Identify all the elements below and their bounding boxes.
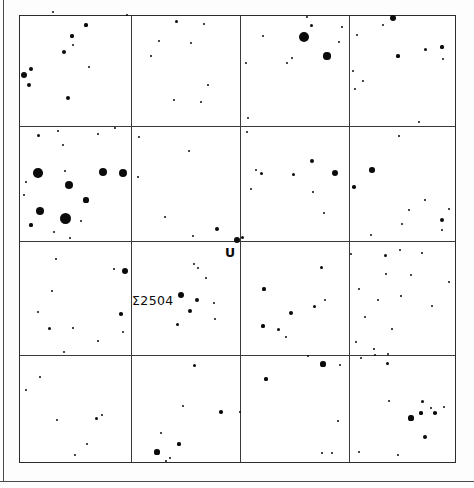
star-marker <box>352 70 354 72</box>
star-marker <box>55 258 58 261</box>
star-marker <box>442 58 445 61</box>
star-marker <box>441 229 443 231</box>
star-marker <box>421 400 424 403</box>
star-marker <box>369 167 375 173</box>
star-marker <box>122 331 124 333</box>
star-marker <box>320 266 323 269</box>
star-marker <box>373 348 375 350</box>
star-marker <box>113 268 115 270</box>
star-marker <box>396 54 399 57</box>
star-marker <box>193 364 196 367</box>
star-marker <box>177 442 180 445</box>
star-marker <box>250 188 252 190</box>
star-marker <box>350 253 352 255</box>
star-marker <box>37 134 40 137</box>
scan-edge-left-rule <box>3 0 4 481</box>
star-marker <box>360 357 363 360</box>
star-marker <box>364 316 367 319</box>
star-marker <box>99 168 108 177</box>
star-marker <box>207 84 209 86</box>
star-marker <box>324 299 326 301</box>
star-marker <box>213 302 216 305</box>
star-marker <box>97 340 100 343</box>
star-marker <box>431 305 433 307</box>
star-marker <box>264 377 267 380</box>
star-marker <box>215 227 220 232</box>
star-marker <box>384 254 387 257</box>
star-marker <box>388 400 391 403</box>
star-marker <box>247 117 249 119</box>
star-marker <box>241 236 244 239</box>
star-marker <box>158 40 160 42</box>
star-marker <box>175 20 178 23</box>
star-marker <box>173 99 175 101</box>
star-marker <box>245 62 247 64</box>
star-marker <box>291 57 293 59</box>
star-marker <box>65 181 74 190</box>
star-marker <box>391 328 393 330</box>
star-marker <box>307 355 309 357</box>
star-marker <box>408 415 413 420</box>
star-marker <box>358 288 361 291</box>
star-marker <box>137 176 139 178</box>
star-chart-page: U Σ2504 <box>0 0 474 488</box>
star-marker <box>370 234 372 236</box>
star-marker <box>331 452 334 455</box>
star-marker <box>433 411 437 415</box>
star-marker <box>23 194 25 196</box>
star-marker <box>440 218 444 222</box>
star-marker <box>424 48 427 51</box>
star-marker <box>321 452 324 455</box>
star-marker <box>114 127 117 130</box>
star-marker <box>312 191 315 194</box>
star-marker <box>390 15 396 21</box>
star-marker <box>119 312 123 316</box>
star-marker <box>339 364 342 367</box>
star-marker <box>193 263 196 266</box>
star-marker <box>119 169 127 177</box>
star-marker <box>400 295 402 297</box>
star-marker <box>197 267 199 269</box>
star-marker <box>285 336 288 339</box>
star-marker <box>195 298 199 302</box>
star-marker <box>72 327 75 330</box>
star-marker <box>239 411 241 413</box>
star-marker <box>37 311 40 314</box>
star-marker <box>165 460 167 462</box>
star-marker <box>401 223 403 225</box>
grid-line-vertical-1 <box>131 16 132 462</box>
star-marker <box>277 328 280 331</box>
star-marker <box>63 351 66 354</box>
star-marker <box>62 50 66 54</box>
star-marker <box>126 14 128 16</box>
star-marker <box>306 16 308 18</box>
star-marker <box>219 410 223 414</box>
star-marker <box>60 213 71 224</box>
star-marker <box>320 361 325 366</box>
star-marker <box>51 290 54 293</box>
star-marker <box>423 435 428 440</box>
star-marker <box>440 45 443 48</box>
star-marker <box>356 34 358 36</box>
star-marker <box>352 185 355 188</box>
star-marker <box>332 170 339 177</box>
star-label-u: U <box>225 247 235 260</box>
star-marker <box>95 417 98 420</box>
star-marker <box>310 24 313 27</box>
star-marker <box>52 11 54 13</box>
star-marker <box>190 42 192 44</box>
star-marker <box>21 72 27 78</box>
star-chart-frame: U Σ2504 <box>19 15 456 463</box>
star-marker <box>88 66 91 69</box>
star-marker <box>62 144 64 146</box>
star-marker <box>188 309 192 313</box>
star-marker <box>355 341 357 343</box>
star-marker <box>377 299 379 301</box>
star-marker <box>57 130 59 132</box>
grid-line-horizontal-1 <box>20 126 455 127</box>
star-marker <box>323 52 330 59</box>
star-marker <box>74 454 77 457</box>
star-marker <box>182 405 185 408</box>
star-marker <box>286 62 288 64</box>
star-marker <box>408 209 411 212</box>
